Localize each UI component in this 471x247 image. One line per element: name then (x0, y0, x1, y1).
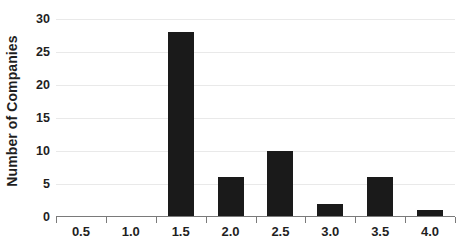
x-tick-label: 3.5 (355, 224, 405, 239)
y-tick-label: 15 (36, 111, 50, 125)
x-tickmark (405, 217, 406, 223)
bar-slot (206, 19, 256, 217)
y-tick-label: 30 (36, 12, 50, 26)
bar-series (56, 19, 455, 217)
bar (367, 177, 393, 217)
bar-slot (256, 19, 306, 217)
x-tickmark (56, 217, 57, 223)
bar-slot (355, 19, 405, 217)
y-tick-label: 5 (43, 177, 50, 191)
bar (267, 151, 293, 217)
y-axis-title: Number of Companies (0, 0, 24, 222)
bar (168, 32, 194, 217)
x-tick-label: 3.0 (305, 224, 355, 239)
y-tick-label: 20 (36, 78, 50, 92)
bar-chart: Number of Companies 30 25 20 15 10 5 0 (0, 0, 471, 247)
x-tick-label: 0.5 (56, 224, 106, 239)
x-tick-label: 2.5 (256, 224, 306, 239)
plot-area (56, 19, 455, 217)
x-tickmark (256, 217, 257, 223)
x-tick-label: 1.5 (156, 224, 206, 239)
bar-slot (156, 19, 206, 217)
y-tick-label: 10 (36, 144, 50, 158)
bar-slot (106, 19, 156, 217)
x-tick-label: 4.0 (405, 224, 455, 239)
x-tick-label: 2.0 (206, 224, 256, 239)
x-tickmark (305, 217, 306, 223)
x-tickmark (355, 217, 356, 223)
x-axis: 0.5 1.0 1.5 2.0 2.5 3.0 3.5 4.0 (56, 217, 455, 247)
bar-slot (305, 19, 355, 217)
x-tick-label: 1.0 (106, 224, 156, 239)
y-tick-label: 25 (36, 45, 50, 59)
x-axis-tick-labels: 0.5 1.0 1.5 2.0 2.5 3.0 3.5 4.0 (56, 224, 455, 239)
y-axis-title-text: Number of Companies (4, 35, 20, 186)
bar-slot (405, 19, 455, 217)
x-tickmark (106, 217, 107, 223)
bar-slot (56, 19, 106, 217)
y-tick-label: 0 (43, 210, 50, 224)
x-tickmark (156, 217, 157, 223)
y-axis-tick-labels: 30 25 20 15 10 5 0 (24, 0, 54, 222)
x-tickmark (206, 217, 207, 223)
bar (218, 177, 244, 217)
x-tickmark (455, 217, 456, 223)
